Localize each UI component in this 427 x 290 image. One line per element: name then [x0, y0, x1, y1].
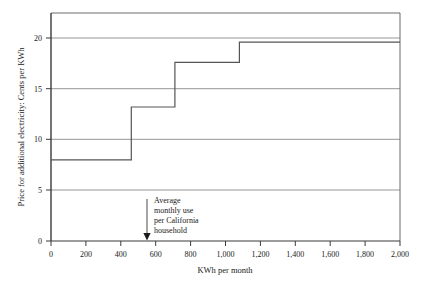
y-tick-label-0: 0 — [38, 237, 42, 246]
x-tick-label-1200: 1,200 — [251, 250, 269, 259]
x-tick-label-2000: 2,000 — [391, 250, 409, 259]
x-tick-label-1000: 1,000 — [217, 250, 235, 259]
x-axis-title: KWh per month — [197, 265, 253, 275]
y-tick-label-5: 5 — [38, 186, 42, 195]
x-tick-label-600: 600 — [150, 250, 162, 259]
step-chart-canvas: 0 5 10 15 20 Price for additional electr… — [0, 0, 427, 290]
x-tick-label-200: 200 — [80, 250, 92, 259]
y-tick-label-15: 15 — [34, 85, 42, 94]
chart-figure: 0 5 10 15 20 Price for additional electr… — [0, 0, 427, 290]
y-axis-title: Price for additional electricity: Cents … — [16, 47, 26, 207]
annotation-line-4: household — [154, 226, 187, 235]
chart-background — [0, 0, 427, 290]
x-tick-label-1800: 1,800 — [356, 250, 374, 259]
x-tick-label-1600: 1,600 — [321, 250, 339, 259]
annotation-line-1: Average — [154, 196, 181, 205]
x-tick-label-0: 0 — [49, 250, 53, 259]
x-tick-label-1400: 1,400 — [286, 250, 304, 259]
x-tick-label-400: 400 — [115, 250, 127, 259]
y-tick-label-10: 10 — [34, 135, 42, 144]
annotation-line-2: monthly use — [154, 206, 194, 215]
y-tick-label-20: 20 — [34, 34, 42, 43]
annotation-line-3: per California — [154, 216, 199, 225]
x-tick-label-800: 800 — [185, 250, 197, 259]
